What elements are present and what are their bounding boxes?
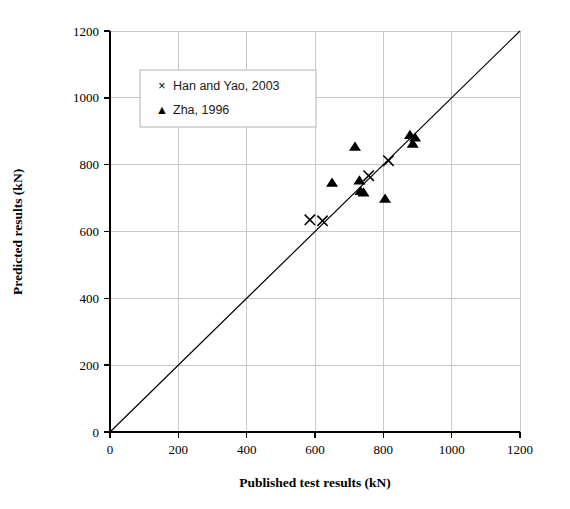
x-tick-label: 400 [237,442,257,457]
data-point-triangle [326,178,338,187]
x-axis-title: Published test results (kN) [239,475,391,490]
y-axis-title: Predicted results (kN) [10,169,25,295]
x-axis-tick-labels: 020040060080010001200 [107,442,533,457]
legend-label: Zha, 1996 [173,103,229,117]
y-tick-label: 0 [93,425,100,440]
x-tick-label: 1200 [507,442,533,457]
x-tick-label: 1000 [439,442,465,457]
y-tick-label: 200 [80,358,100,373]
series-2-markers [326,130,421,203]
legend-label: Han and Yao, 2003 [173,79,280,93]
legend: ×Han and Yao, 2003▲Zha, 1996 [140,70,316,127]
y-tick-label: 600 [80,224,100,239]
data-point-triangle [379,194,391,203]
y-tick-label: 1000 [73,90,99,105]
y-axis-tick-labels: 020040060080010001200 [73,24,99,440]
x-tick-label: 0 [107,442,114,457]
x-tick-label: 800 [374,442,394,457]
data-point-cross [305,215,315,225]
scatter-plot-figure: 020040060080010001200 020040060080010001… [0,0,570,509]
chart-canvas: 020040060080010001200 020040060080010001… [0,0,570,509]
series-1-markers [305,155,394,226]
x-tick-label: 200 [169,442,189,457]
y-tick-label: 1200 [73,24,99,39]
data-point-triangle [349,141,361,150]
x-tick-label: 600 [305,442,325,457]
y-tick-label: 400 [80,291,100,306]
legend-marker-icon: × [158,79,165,93]
legend-marker-icon: ▲ [156,103,168,117]
y-tick-label: 800 [80,157,100,172]
